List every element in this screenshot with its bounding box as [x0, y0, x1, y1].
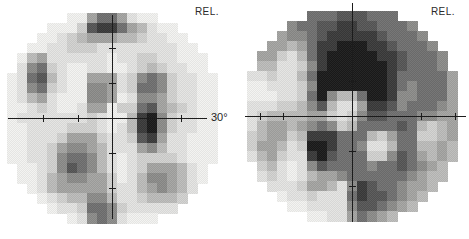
- crosshair-axes-right: [0, 0, 469, 239]
- right-visual-field-plot: REL.: [0, 0, 469, 239]
- axis-tick-mark: [349, 186, 356, 187]
- axis-tick-mark: [349, 151, 356, 152]
- axis-tick-mark: [421, 113, 422, 120]
- axis-tick-mark: [260, 113, 261, 120]
- axis-tick-mark: [349, 81, 356, 82]
- axis-tick-mark: [349, 46, 356, 47]
- figure-canvas: REL. 30° REL.: [0, 0, 469, 239]
- vertical-axis-line: [352, 3, 353, 222]
- axis-tick-mark: [283, 113, 284, 120]
- horizontal-axis-line: [245, 116, 466, 117]
- rel-label-right: REL.: [431, 6, 455, 17]
- axis-tick-mark: [455, 113, 456, 120]
